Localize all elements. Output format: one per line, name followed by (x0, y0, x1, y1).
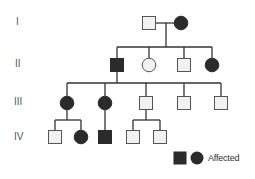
male-square-icon (178, 59, 191, 72)
affected-female-circle-icon (60, 96, 74, 110)
male-square-icon (178, 97, 191, 110)
generation-label-II: II (15, 58, 21, 69)
affected-female-circle-icon (174, 16, 188, 30)
male-square-icon (49, 131, 62, 144)
female-circle-icon (142, 58, 156, 72)
affected-male-square-icon (99, 131, 112, 144)
affected-female-circle-icon (205, 58, 219, 72)
male-square-icon (127, 131, 140, 144)
affected-female-circle-icon (98, 96, 112, 110)
generation-label-IV: IV (14, 131, 23, 142)
affected-male-square-icon (111, 59, 124, 72)
male-square-icon (140, 97, 153, 110)
male-square-icon (154, 131, 167, 144)
legend-affected-square-icon (174, 152, 186, 164)
generation-label-I: I (16, 16, 19, 27)
male-square-icon (143, 17, 156, 30)
generation-label-III: III (14, 96, 22, 107)
legend-label: Affected (208, 153, 239, 163)
connector-lines (55, 23, 221, 130)
legend (174, 152, 204, 165)
affected-female-circle-icon (74, 130, 88, 144)
individuals (49, 16, 228, 144)
male-square-icon (215, 97, 228, 110)
legend-affected-circle-icon (191, 152, 204, 165)
